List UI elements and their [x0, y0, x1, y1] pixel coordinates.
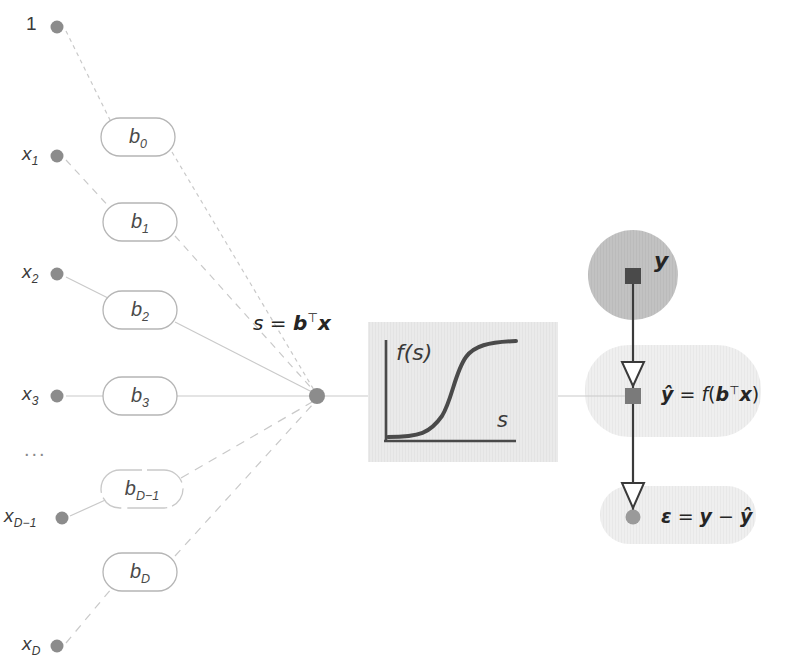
input-label-x3: x3	[22, 383, 39, 408]
weight-label-b2: b2	[103, 298, 177, 324]
edge-bDm1-sum	[181, 401, 314, 478]
input-label-x1: x1	[22, 143, 39, 168]
weight-label-b0: b0	[101, 125, 175, 151]
input-ellipsis: ...	[24, 438, 47, 461]
edges-weight-to-sum	[172, 152, 314, 556]
edge-bD-sum	[175, 403, 314, 556]
residual-node[interactable]	[626, 510, 641, 525]
input-node-xD[interactable]	[51, 640, 64, 653]
input-node-x2[interactable]	[51, 268, 64, 281]
edges-input-to-weight	[66, 31, 112, 643]
edge-xD-bD	[66, 588, 112, 643]
prediction-marker-square[interactable]	[625, 388, 641, 404]
input-label-xD: xD	[22, 633, 41, 658]
input-label-bias: 1	[26, 13, 37, 35]
diagram-canvas: 1 x1 x2 x3 xD−1 xD ... b0 b1 b2 b3 bD−1 …	[0, 0, 788, 667]
input-node-xD-1[interactable]	[56, 512, 69, 525]
weight-label-b1: b1	[103, 210, 177, 236]
residual-label: ε = y − ŷ	[661, 505, 752, 527]
target-label: y	[654, 248, 668, 273]
input-nodes	[51, 21, 69, 653]
edge-b0-sum	[172, 152, 314, 390]
edge-bias-b0	[66, 31, 112, 124]
input-label-x2: x2	[22, 261, 39, 286]
activation-ylabel: f(s)	[396, 340, 432, 365]
weight-label-bD: bD	[103, 560, 177, 586]
prediction-label: ŷ = f(b⊤x)	[661, 383, 759, 405]
weight-label-b3: b3	[103, 384, 177, 410]
input-node-x1[interactable]	[51, 150, 64, 163]
input-node-x3[interactable]	[51, 390, 64, 403]
activation-xlabel: s	[497, 408, 508, 432]
target-marker-square[interactable]	[625, 268, 641, 284]
edge-x1-b1	[66, 160, 112, 210]
weight-label-bD-1: bD−1	[101, 477, 183, 503]
input-label-xD-1: xD−1	[4, 505, 37, 530]
sum-equation-label: s = b⊤x	[253, 310, 331, 335]
edge-x2-b2	[66, 277, 112, 300]
weight-boxes	[101, 118, 183, 591]
input-node-bias[interactable]	[51, 21, 64, 34]
summation-node[interactable]	[309, 388, 325, 404]
